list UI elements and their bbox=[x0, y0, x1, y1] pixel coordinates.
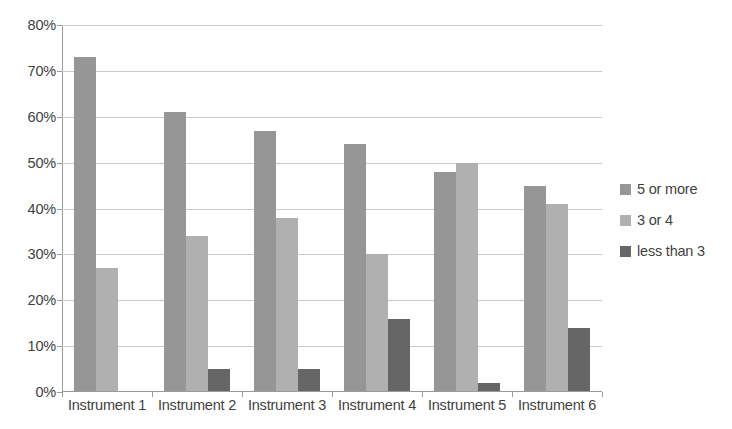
bar bbox=[456, 163, 478, 392]
x-axis-tick bbox=[242, 392, 243, 397]
bar bbox=[276, 218, 298, 392]
x-axis-tick-label: Instrument 2 bbox=[152, 398, 242, 414]
y-axis-labels: 0%10%20%30%40%50%60%70%80% bbox=[0, 0, 56, 429]
bar-groups bbox=[62, 25, 602, 392]
legend-swatch-icon bbox=[620, 215, 631, 226]
bar bbox=[164, 112, 186, 392]
x-axis-tick-label: Instrument 1 bbox=[62, 398, 152, 414]
x-axis-tick bbox=[512, 392, 513, 397]
x-axis-tick-label: Instrument 4 bbox=[332, 398, 422, 414]
bar-group bbox=[512, 25, 602, 392]
x-axis-tick-label: Instrument 3 bbox=[242, 398, 332, 414]
y-axis-tick-label: 30% bbox=[2, 247, 56, 262]
x-axis-tick bbox=[62, 392, 63, 397]
y-axis-tick-label: 20% bbox=[2, 293, 56, 308]
bar bbox=[96, 268, 118, 392]
bar bbox=[434, 172, 456, 392]
bar-group bbox=[152, 25, 242, 392]
y-axis-tick-label: 10% bbox=[2, 339, 56, 354]
legend-label: 5 or more bbox=[637, 182, 697, 197]
bar-group bbox=[242, 25, 332, 392]
legend: 5 or more3 or 4less than 3 bbox=[620, 174, 732, 267]
bar bbox=[524, 186, 546, 392]
grouped-bar-chart: 0%10%20%30%40%50%60%70%80% Instrument 1I… bbox=[0, 0, 732, 429]
x-axis-tick-label: Instrument 6 bbox=[512, 398, 602, 414]
legend-swatch-icon bbox=[620, 246, 631, 257]
bar bbox=[186, 236, 208, 392]
bar-group bbox=[332, 25, 422, 392]
x-axis-tick bbox=[152, 392, 153, 397]
bar bbox=[366, 254, 388, 392]
bar bbox=[344, 144, 366, 392]
bar-group bbox=[422, 25, 512, 392]
y-axis-tick-label: 60% bbox=[2, 110, 56, 125]
bar bbox=[208, 369, 230, 392]
y-axis-tick-label: 0% bbox=[2, 385, 56, 400]
bar bbox=[568, 328, 590, 392]
bar bbox=[298, 369, 320, 392]
x-axis-tick bbox=[602, 392, 603, 397]
legend-item[interactable]: 5 or more bbox=[620, 174, 732, 205]
bar bbox=[254, 131, 276, 392]
y-axis-tick-label: 80% bbox=[2, 18, 56, 33]
bar-group bbox=[62, 25, 152, 392]
y-axis-tick-label: 50% bbox=[2, 155, 56, 170]
legend-label: 3 or 4 bbox=[637, 213, 673, 228]
bar bbox=[546, 204, 568, 392]
x-axis-line bbox=[62, 391, 602, 392]
y-axis-tick-label: 70% bbox=[2, 64, 56, 79]
legend-item[interactable]: 3 or 4 bbox=[620, 205, 732, 236]
y-axis-tick-label: 40% bbox=[2, 201, 56, 216]
x-axis-labels: Instrument 1Instrument 2Instrument 3Inst… bbox=[62, 398, 602, 426]
legend-swatch-icon bbox=[620, 184, 631, 195]
bar bbox=[388, 319, 410, 392]
bar bbox=[74, 57, 96, 392]
x-axis-tick-label: Instrument 5 bbox=[422, 398, 512, 414]
x-axis-tick bbox=[422, 392, 423, 397]
legend-label: less than 3 bbox=[637, 244, 705, 259]
legend-item[interactable]: less than 3 bbox=[620, 236, 732, 267]
plot-area bbox=[62, 25, 602, 392]
x-axis-tick bbox=[332, 392, 333, 397]
